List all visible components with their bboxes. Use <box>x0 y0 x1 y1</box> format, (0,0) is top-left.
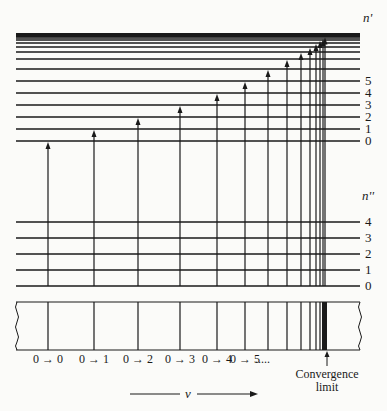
arrow-head-icon <box>92 130 97 137</box>
transition-label: 0 → 0 <box>33 353 63 365</box>
transition-label: ..... <box>255 353 270 365</box>
arrow-head-icon <box>136 118 141 125</box>
spectral-line-convergence <box>322 302 327 350</box>
arrow-head-icon <box>243 82 248 89</box>
convergence-label-line1: Convergence <box>293 368 361 380</box>
lower-level-label: 2 <box>365 247 372 260</box>
arrow-head-icon <box>325 351 330 357</box>
arrow-head-icon <box>299 53 304 60</box>
transition-label: 0 → 3 <box>165 353 195 365</box>
arrow-head-icon <box>215 94 220 101</box>
arrow-head-icon <box>285 60 290 67</box>
lower-level-label: 0 <box>365 279 372 292</box>
transition-label: 0 → 1 <box>79 353 109 365</box>
frequency-axis-label: ν <box>185 387 191 400</box>
transition-label: 0 → 2 <box>123 353 153 365</box>
lower-level-label: 1 <box>365 263 372 276</box>
arrow-right-icon <box>250 391 258 397</box>
vibronic-progression-diagram: n' n'' Convergence limit ν 012345012340 … <box>0 0 387 411</box>
convergence-label: Convergence limit <box>293 368 361 393</box>
lower-state-label: n'' <box>362 189 374 202</box>
transition-label: 0 → 4 <box>202 353 232 365</box>
arrow-head-icon <box>46 142 51 149</box>
arrow-head-icon <box>266 70 271 77</box>
arrow-head-icon <box>178 106 183 113</box>
lower-level-label: 3 <box>365 231 372 244</box>
upper-state-label: n' <box>363 11 372 24</box>
spectrum-left-wavy-edge <box>16 302 19 350</box>
energy-level-figure <box>0 0 387 411</box>
lower-level-label: 4 <box>365 215 372 228</box>
convergence-label-line2: limit <box>293 381 361 393</box>
spectrum-right-wavy-edge <box>359 302 362 350</box>
upper-level-label: 5 <box>365 74 372 87</box>
